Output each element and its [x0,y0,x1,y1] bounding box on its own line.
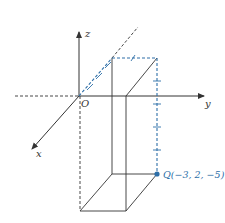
coordinate-diagram [0,0,225,223]
x-axis-label: x [36,149,42,159]
path-to-point [79,58,157,174]
origin-label: O [81,99,89,109]
x-axis [32,96,79,149]
unit-ticks [87,55,161,150]
y-axis-label: y [205,99,211,109]
negative-x-axis [112,27,138,58]
point-q-label: Q(−3, 2, −5) [163,170,224,180]
z-axis-label: z [85,29,90,39]
diagram-canvas: z y x O Q(−3, 2, −5) [0,0,225,223]
point-q-marker [154,171,159,176]
projection-box [80,58,157,211]
